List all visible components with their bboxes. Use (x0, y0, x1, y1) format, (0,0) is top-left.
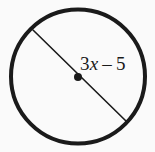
label-variable: x (89, 53, 99, 74)
diameter-measure-label: 3x–5 (80, 53, 126, 74)
geometry-figure: 3x–5 (0, 0, 155, 152)
label-constant: 5 (116, 53, 126, 74)
center-dot (74, 73, 82, 81)
circle-diameter-diagram: 3x–5 (0, 0, 155, 152)
label-operator: – (101, 53, 112, 74)
label-coefficient: 3 (80, 53, 90, 74)
